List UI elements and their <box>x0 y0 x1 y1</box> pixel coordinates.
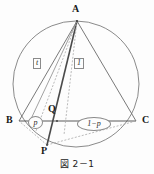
oval-label-p: p <box>28 116 43 129</box>
vertex-label-q: Q <box>48 104 56 114</box>
vertex-label-c: C <box>142 115 149 125</box>
vertex-label-p: P <box>41 146 47 156</box>
geometry-figure: A B C Q P t 1 p 1−p 図 2－1 <box>0 0 154 174</box>
point-a-marker <box>76 20 78 22</box>
segment-ap <box>47 21 77 145</box>
figure-caption: 図 2－1 <box>0 157 154 170</box>
figure-canvas <box>0 0 154 174</box>
vertex-label-b: B <box>6 115 13 125</box>
box-label-t: t <box>33 58 41 69</box>
segment-ac <box>77 21 136 121</box>
oval-label-one-minus-p: 1−p <box>77 117 111 131</box>
vertex-label-a: A <box>72 4 79 14</box>
box-label-one: 1 <box>74 58 84 69</box>
point-q-marker <box>56 120 58 122</box>
